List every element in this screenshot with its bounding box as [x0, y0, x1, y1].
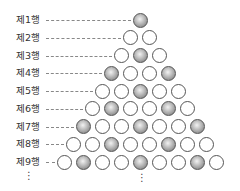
row-label: 제7행: [16, 121, 40, 133]
open-ball-icon: [152, 84, 167, 99]
shaded-ball-icon: [190, 155, 205, 170]
open-ball-icon: [142, 66, 157, 81]
row-leader-line: [46, 20, 131, 21]
row-leader-line: [46, 56, 112, 57]
row-label: 제4행: [16, 67, 40, 79]
shaded-ball-icon: [104, 101, 119, 116]
open-ball-icon: [114, 155, 129, 170]
open-ball-icon: [199, 137, 214, 152]
shaded-ball-icon: [133, 84, 148, 99]
row-leader-line: [46, 91, 93, 92]
row-label: 제1행: [16, 14, 40, 26]
open-ball-icon: [85, 101, 100, 116]
open-ball-icon: [95, 84, 110, 99]
shaded-ball-icon: [133, 13, 148, 28]
open-ball-icon: [123, 30, 138, 45]
shaded-ball-icon: [161, 101, 176, 116]
open-ball-icon: [114, 84, 129, 99]
row-label: 제9행: [16, 156, 40, 168]
shaded-ball-icon: [133, 119, 148, 134]
open-ball-icon: [66, 137, 81, 152]
row-label: 제6행: [16, 103, 40, 115]
row-label: 제2행: [16, 32, 40, 44]
open-ball-icon: [123, 101, 138, 116]
open-ball-icon: [85, 137, 100, 152]
row-label: 제8행: [16, 138, 40, 150]
row-leader-line: [46, 127, 74, 128]
open-ball-icon: [171, 84, 186, 99]
open-ball-icon: [142, 101, 157, 116]
row-leader-line: [46, 144, 64, 145]
open-ball-icon: [123, 66, 138, 81]
open-ball-icon: [95, 119, 110, 134]
shaded-ball-icon: [104, 66, 119, 81]
open-ball-icon: [123, 137, 138, 152]
triangle-ball-diagram: 제1행제2행제3행제4행제5행제6행제7행제8행제9행: [0, 0, 240, 191]
row-label: 제3행: [16, 50, 40, 62]
row-label: 제5행: [16, 85, 40, 97]
open-ball-icon: [209, 155, 224, 170]
shaded-ball-icon: [161, 66, 176, 81]
open-ball-icon: [180, 137, 195, 152]
open-ball-icon: [142, 137, 157, 152]
shaded-ball-icon: [161, 137, 176, 152]
shaded-ball-icon: [76, 155, 91, 170]
open-ball-icon: [57, 155, 72, 170]
shaded-ball-icon: [190, 119, 205, 134]
open-ball-icon: [95, 155, 110, 170]
row-leader-line: [46, 109, 83, 110]
open-ball-icon: [142, 30, 157, 45]
open-ball-icon: [171, 155, 186, 170]
open-ball-icon: [114, 48, 129, 63]
label-continuation-dots: ⋮: [24, 174, 30, 178]
shaded-ball-icon: [133, 48, 148, 63]
shaded-ball-icon: [76, 119, 91, 134]
open-ball-icon: [171, 119, 186, 134]
triangle-continuation-dots: ⋮: [137, 176, 143, 180]
shaded-ball-icon: [133, 155, 148, 170]
open-ball-icon: [152, 48, 167, 63]
row-leader-line: [46, 38, 121, 39]
open-ball-icon: [152, 119, 167, 134]
row-leader-line: [46, 73, 102, 74]
shaded-ball-icon: [104, 137, 119, 152]
open-ball-icon: [114, 119, 129, 134]
row-leader-line: [46, 162, 55, 163]
open-ball-icon: [180, 101, 195, 116]
open-ball-icon: [152, 155, 167, 170]
